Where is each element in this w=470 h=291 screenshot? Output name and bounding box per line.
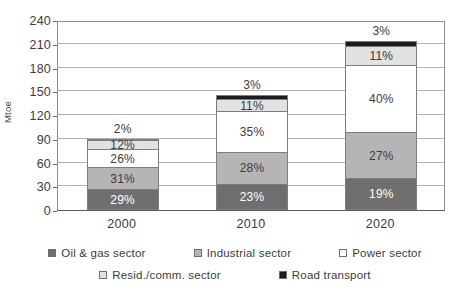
bar-segment[interactable]: 11% xyxy=(345,46,417,65)
y-axis-tick-label: 120 xyxy=(11,110,51,123)
segment-value-label: 11% xyxy=(240,100,264,112)
y-axis-tick-label: 180 xyxy=(11,63,51,76)
segment-value-label: 12% xyxy=(110,139,135,151)
segment-value-label: 28% xyxy=(240,162,265,174)
bar-segment[interactable]: 31% xyxy=(87,167,159,189)
segment-value-label: 26% xyxy=(110,153,135,165)
bar-segment[interactable] xyxy=(345,41,417,46)
legend-swatch-icon xyxy=(339,249,347,257)
legend-swatch-icon xyxy=(194,249,202,257)
legend-swatch-icon xyxy=(279,271,287,279)
segment-value-label: 27% xyxy=(369,150,394,162)
segment-value-label: 19% xyxy=(369,188,394,200)
bar-segment[interactable]: 23% xyxy=(216,184,288,210)
segment-value-label: 40% xyxy=(369,93,394,105)
bar-segment[interactable]: 12% xyxy=(87,140,159,149)
legend-item[interactable]: Road transport xyxy=(279,269,371,281)
segment-value-label: 29% xyxy=(110,194,135,206)
legend-swatch-icon xyxy=(48,249,56,257)
legend-label: Power sector xyxy=(352,247,422,259)
bar-group[interactable]: 3%23%28%35%11% xyxy=(216,20,288,210)
bar-segment[interactable]: 27% xyxy=(345,132,417,178)
legend-swatch-icon xyxy=(99,271,107,279)
x-axis-category-label: 2020 xyxy=(340,217,420,231)
stacked-bar[interactable]: 19%27%40%11% xyxy=(345,41,417,210)
legend-item[interactable]: Resid./comm. sector xyxy=(99,269,221,281)
legend-item[interactable]: Industrial sector xyxy=(194,247,292,259)
bar-segment[interactable]: 29% xyxy=(87,189,159,210)
y-axis-tick-label: 0 xyxy=(11,205,51,218)
legend-item[interactable]: Oil & gas sector xyxy=(48,247,145,259)
legend-label: Industrial sector xyxy=(207,247,292,259)
x-axis-category-label: 2000 xyxy=(82,217,162,231)
segment-value-label: 35% xyxy=(240,126,265,138)
legend-row-primary: Oil & gas sectorIndustrial sectorPower s… xyxy=(0,247,470,259)
y-axis-tick-label: 90 xyxy=(11,134,51,147)
segment-value-label-outside: 2% xyxy=(87,123,159,135)
bar-segment[interactable]: 19% xyxy=(345,178,417,210)
y-axis-tick-label: 60 xyxy=(11,158,51,171)
bar-segment[interactable]: 35% xyxy=(216,111,288,151)
stacked-bar[interactable]: 23%28%35%11% xyxy=(216,95,288,210)
y-axis-tick-label: 30 xyxy=(11,181,51,194)
bar-group[interactable]: 2%29%31%26%12% xyxy=(87,20,159,210)
bar-segment[interactable]: 40% xyxy=(345,65,417,132)
chart-title-fragment xyxy=(0,0,470,9)
bar-segment[interactable] xyxy=(87,139,159,140)
legend-row-secondary: Resid./comm. sectorRoad transport xyxy=(0,269,470,281)
stacked-bar-chart: Mtoe 0306090120150180210240 2%29%31%26%1… xyxy=(0,0,470,291)
segment-value-label: 11% xyxy=(369,50,393,62)
bar-segment[interactable] xyxy=(216,95,288,98)
legend-label: Resid./comm. sector xyxy=(112,269,221,281)
legend-label: Road transport xyxy=(292,269,371,281)
y-axis-tick-label: 240 xyxy=(11,15,51,28)
legend-item[interactable]: Power sector xyxy=(339,247,422,259)
segment-value-label: 23% xyxy=(240,191,265,203)
y-axis-tick-label: 150 xyxy=(11,86,51,99)
segment-value-label-outside: 3% xyxy=(216,79,288,91)
segment-value-label-outside: 3% xyxy=(345,25,417,37)
bar-segment[interactable]: 11% xyxy=(216,99,288,112)
y-axis-tick-mark xyxy=(53,211,57,212)
y-axis-tick-label: 210 xyxy=(11,39,51,52)
bar-group[interactable]: 3%19%27%40%11% xyxy=(345,20,417,210)
legend-label: Oil & gas sector xyxy=(61,247,145,259)
stacked-bar[interactable]: 29%31%26%12% xyxy=(87,139,159,210)
x-axis-category-label: 2010 xyxy=(211,217,291,231)
plot-area: 2%29%31%26%12%3%23%28%35%11%3%19%27%40%1… xyxy=(57,21,445,211)
bar-segment[interactable]: 28% xyxy=(216,152,288,184)
segment-value-label: 31% xyxy=(110,173,135,185)
